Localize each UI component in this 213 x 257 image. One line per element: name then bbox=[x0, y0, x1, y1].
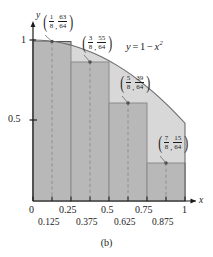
frac-denominator: 64 bbox=[58, 22, 67, 29]
frac-denominator: 8 bbox=[49, 22, 55, 29]
fraction-y-1: 63 64 bbox=[58, 14, 68, 30]
frac-denominator: 64 bbox=[173, 143, 182, 150]
comma-2: , bbox=[94, 44, 97, 52]
x-tick-label-075: 0.75 bbox=[135, 205, 153, 215]
equation-label: y=1−x2 bbox=[126, 40, 163, 52]
paren-close-1: ) bbox=[69, 15, 73, 29]
paren-close-3: ) bbox=[146, 76, 150, 90]
x-tick-label-025: 0.25 bbox=[59, 205, 77, 215]
x-tick-label-1: 1 bbox=[182, 205, 187, 215]
point-label-1: ( 1 8 , 63 64 ) bbox=[42, 14, 74, 30]
point-label-4: ( 7 8 , 15 64 ) bbox=[157, 135, 189, 151]
frac-denominator: 8 bbox=[126, 83, 132, 90]
x-tick-label-0625: 0.625 bbox=[114, 218, 135, 228]
area-under-curve bbox=[33, 40, 185, 201]
fraction-y-4: 15 64 bbox=[173, 135, 183, 151]
equation-equals: = bbox=[131, 41, 140, 52]
point-label-3: ( 5 8 , 39 64 ) bbox=[119, 75, 151, 91]
x-tick-label-05: 0.5 bbox=[101, 205, 114, 215]
paren-close-4: ) bbox=[184, 136, 188, 150]
equation-exponent: 2 bbox=[159, 39, 162, 46]
fraction-y-3: 39 64 bbox=[135, 75, 145, 91]
point-label-2: ( 3 8 , 55 64 ) bbox=[81, 35, 113, 51]
frac-denominator: 8 bbox=[164, 143, 170, 150]
comma-4: , bbox=[170, 144, 173, 152]
frac-denominator: 64 bbox=[135, 83, 144, 90]
equation-minus: − bbox=[145, 41, 154, 52]
comma-3: , bbox=[132, 84, 135, 92]
riemann-sum-figure: y x 1 0.5 0 0.25 0.5 0.75 1 0.125 0.375 … bbox=[0, 0, 213, 257]
x-axis-label: x bbox=[199, 196, 203, 206]
x-tick-label-0375: 0.375 bbox=[76, 218, 97, 228]
y-axis-label: y bbox=[36, 11, 40, 21]
paren-open-1: ( bbox=[43, 15, 47, 29]
frac-denominator: 64 bbox=[97, 43, 106, 50]
x-tick-label-0875: 0.875 bbox=[152, 218, 173, 228]
paren-open-2: ( bbox=[82, 36, 86, 50]
comma-1: , bbox=[55, 23, 58, 31]
y-tick-label-05: 0.5 bbox=[8, 114, 21, 124]
y-tick-label-1: 1 bbox=[21, 35, 26, 45]
paren-open-4: ( bbox=[158, 136, 162, 150]
paren-close-2: ) bbox=[108, 36, 112, 50]
x-tick-label-0125: 0.125 bbox=[38, 218, 59, 228]
frac-denominator: 8 bbox=[88, 43, 94, 50]
x-tick-label-0: 0 bbox=[29, 205, 34, 215]
subfigure-caption: (b) bbox=[0, 238, 213, 248]
paren-open-3: ( bbox=[120, 76, 124, 90]
fraction-y-2: 55 64 bbox=[97, 35, 107, 51]
